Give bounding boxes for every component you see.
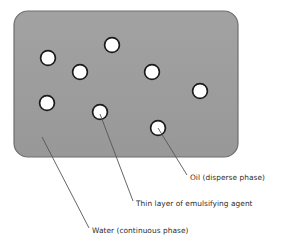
oil-droplet xyxy=(73,65,88,80)
diagram-canvas: Oil (disperse phase) Thin layer of emuls… xyxy=(0,0,282,247)
label-water-continuous-phase: Water (continuous phase) xyxy=(92,226,189,235)
oil-droplet xyxy=(105,38,120,53)
oil-droplet xyxy=(193,84,208,99)
oil-droplet xyxy=(41,51,56,66)
callout-labels: Oil (disperse phase) Thin layer of emuls… xyxy=(92,173,265,235)
emulsion-diagram: Oil (disperse phase) Thin layer of emuls… xyxy=(0,0,282,247)
label-oil-disperse-phase: Oil (disperse phase) xyxy=(190,173,265,182)
oil-droplet xyxy=(40,96,55,111)
label-emulsifying-agent: Thin layer of emulsifying agent xyxy=(135,199,253,208)
oil-droplet xyxy=(145,65,160,80)
water-continuous-phase-region xyxy=(14,11,238,157)
oil-droplet xyxy=(93,105,108,120)
